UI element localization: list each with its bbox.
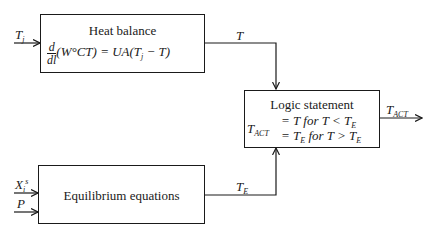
logic-statement-box: Logic statement TACT = T for T < TE = TE… (244, 90, 380, 148)
x-label: Xis (15, 178, 28, 194)
derivative-fraction: d dl (47, 41, 56, 66)
logic-lhs: TACT (247, 121, 269, 138)
equilibrium-equations-title: Equilibrium equations (39, 188, 204, 204)
t-signal-arrow (204, 43, 276, 89)
tact-label: TACT (386, 103, 408, 119)
tj-label: Tj (15, 28, 24, 44)
logic-statement-title: Logic statement (245, 97, 379, 113)
logic-condition-2: = TE for T > TE (281, 128, 361, 145)
t-label: T (236, 29, 243, 42)
heat-balance-box: Heat balance d dl (W°CT) = UA(Tj − T) (40, 14, 205, 73)
equilibrium-equations-box: Equilibrium equations (38, 165, 205, 224)
heat-balance-title: Heat balance (41, 23, 204, 39)
p-label: P (17, 197, 25, 210)
heat-balance-equation: d dl (W°CT) = UA(Tj − T) (47, 41, 170, 66)
te-label: TE (236, 180, 248, 196)
